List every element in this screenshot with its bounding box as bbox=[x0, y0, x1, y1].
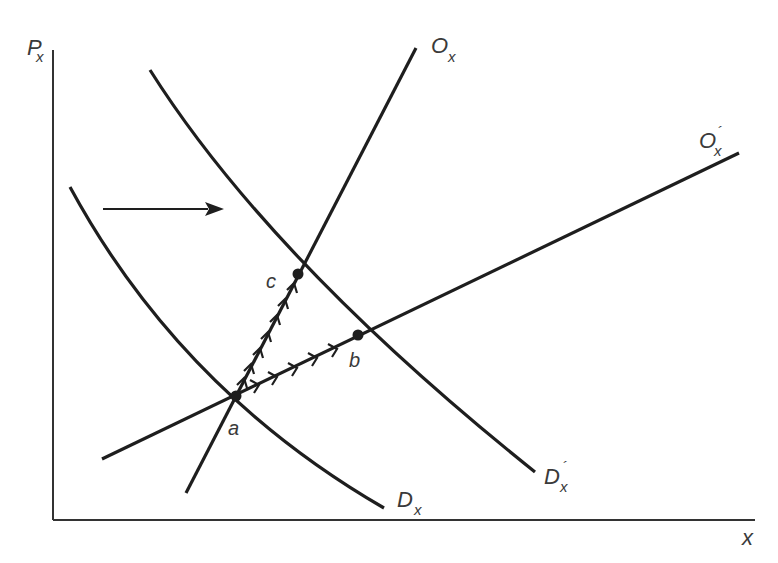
supply-curve-ox-prime bbox=[102, 153, 739, 459]
point-c bbox=[293, 269, 304, 280]
point-a bbox=[231, 391, 242, 402]
label-dx: D bbox=[397, 487, 413, 512]
label-dx-sub: x bbox=[413, 501, 422, 518]
label-dx-prime: D bbox=[544, 464, 560, 489]
label-dx-prime-sub: x bbox=[559, 478, 568, 495]
point-b bbox=[353, 330, 364, 341]
label-ox-sub: x bbox=[447, 48, 456, 65]
label-dx-prime-mark: ´ bbox=[562, 458, 567, 475]
y-axis-label-sub: x bbox=[35, 48, 44, 65]
diagram-canvas: P x x a b c O x O ´ x bbox=[0, 0, 778, 563]
shift-arrow-icon bbox=[103, 202, 224, 216]
label-ox-prime-sub: x bbox=[713, 142, 722, 159]
demand-curve-dx-prime bbox=[150, 70, 535, 472]
point-b-label: b bbox=[349, 349, 360, 371]
point-c-label: c bbox=[266, 270, 276, 292]
label-ox: O bbox=[431, 33, 448, 58]
point-a-label: a bbox=[228, 417, 239, 439]
x-axis-label: x bbox=[741, 525, 754, 550]
label-ox-prime-mark: ´ bbox=[717, 123, 722, 140]
